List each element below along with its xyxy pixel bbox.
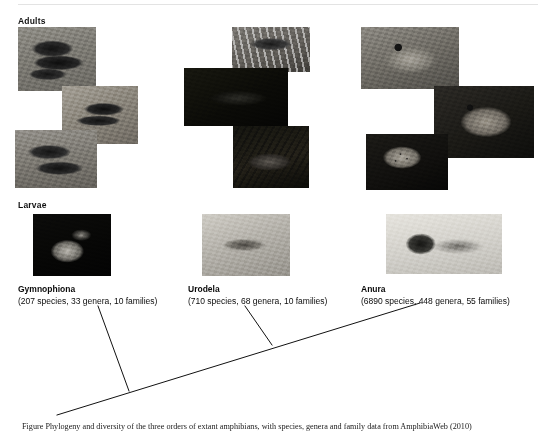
taxon-name-gymnophiona: Gymnophiona	[18, 284, 157, 295]
photo-grain	[434, 86, 534, 158]
photo-spotted-salamander-on-rock	[232, 27, 310, 72]
tree-spine-line	[57, 303, 420, 415]
photo-grain	[232, 27, 310, 72]
photo-grain	[33, 214, 111, 276]
photo-caecilian-glossy-loop	[15, 130, 97, 188]
adults-row-label: Adults	[18, 16, 46, 26]
photo-caecilian-coiled-dark	[18, 27, 96, 91]
photo-tree-frog-climbing	[361, 27, 459, 89]
figure-caption: Figure Phylogeny and diversity of the th…	[22, 421, 532, 432]
top-divider	[18, 4, 538, 5]
photo-spotted-frog-on-rock	[366, 134, 448, 190]
taxon-name-anura: Anura	[361, 284, 510, 295]
photo-caecilian-larva-dark-field	[33, 214, 111, 276]
tree-line-group	[57, 303, 420, 415]
amphibian-diversity-figure: Adults Larvae Gymnophiona (207 species, …	[0, 0, 549, 433]
photo-grain	[361, 27, 459, 89]
taxon-name-urodela: Urodela	[188, 284, 327, 295]
tree-branch-gymnophiona	[98, 306, 129, 391]
photo-toad-on-sand	[434, 86, 534, 158]
cladogram-tree	[0, 296, 549, 424]
photo-grain	[184, 68, 288, 126]
photo-grain	[366, 134, 448, 190]
photo-crested-newt-on-sand	[233, 126, 309, 188]
photo-salamander-dark-background	[184, 68, 288, 126]
photo-grain	[15, 130, 97, 188]
larvae-row-label: Larvae	[18, 200, 47, 210]
photo-grain	[233, 126, 309, 188]
photo-salamander-larva-with-gills	[202, 214, 290, 276]
photo-grain	[18, 27, 96, 91]
tree-branch-urodela	[245, 306, 272, 345]
photo-grain	[386, 214, 502, 274]
photo-tadpole-side-view	[386, 214, 502, 274]
photo-grain	[202, 214, 290, 276]
